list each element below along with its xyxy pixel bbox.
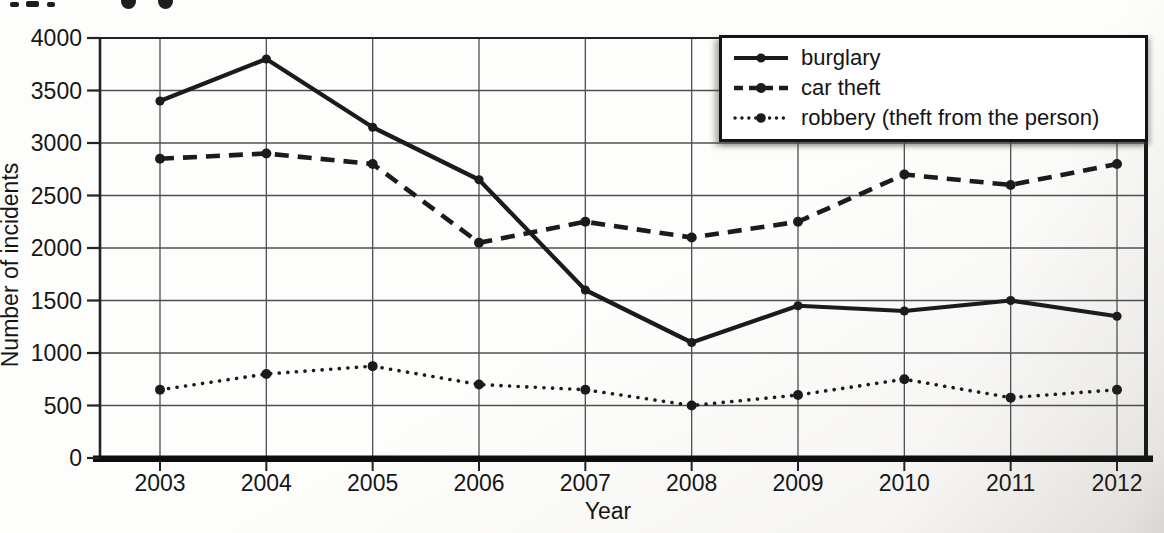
burglary-marker (900, 306, 909, 315)
robbery-theft-from-the-person-marker (687, 401, 697, 411)
legend-label: burglary (801, 45, 880, 71)
x-tick-label: 2012 (1091, 470, 1142, 496)
car-theft-marker (899, 170, 909, 180)
car-theft-marker (580, 217, 590, 227)
burglary-marker (687, 338, 696, 347)
burglary-marker (1006, 296, 1015, 305)
burglary-marker (474, 175, 483, 184)
legend-item-robbery: robbery (theft from the person) (732, 103, 1141, 133)
y-tick-label: 3000 (31, 130, 82, 156)
legend-label: car theft (801, 75, 880, 101)
dashed-line-sample-icon (732, 80, 790, 96)
y-tick-label: 0 (69, 445, 82, 471)
x-tick-label: 2003 (134, 470, 185, 496)
legend-item-burglary: burglary (732, 43, 1141, 73)
car-theft-line (160, 154, 1117, 243)
y-tick-label: 2000 (31, 235, 82, 261)
y-tick-label: 3500 (31, 78, 82, 104)
x-tick-label: 2006 (453, 470, 504, 496)
robbery-theft-from-the-person-marker (1006, 393, 1016, 403)
robbery-theft-from-the-person-marker (580, 385, 590, 395)
dotted-line-sample-icon (732, 110, 790, 126)
scanned-chart-page: 0500100015002000250030003500400020032004… (0, 0, 1164, 533)
car-theft-marker (474, 238, 484, 248)
burglary-marker (262, 54, 271, 63)
car-theft-marker (687, 233, 697, 243)
solid-line-sample-icon (732, 50, 790, 66)
x-axis (93, 456, 1153, 463)
burglary-marker (793, 301, 802, 310)
car-theft-marker (1112, 159, 1122, 169)
y-tick-label: 2500 (31, 183, 82, 209)
x-tick-label: 2007 (560, 470, 611, 496)
y-tick-label: 1500 (31, 288, 82, 314)
x-tick-label: 2010 (879, 470, 930, 496)
burglary-marker (581, 285, 590, 294)
robbery-theft-from-the-person-marker (261, 369, 271, 379)
car-theft-marker (1006, 180, 1016, 190)
car-theft-marker (261, 149, 271, 159)
robbery-theft-from-the-person-marker (1112, 385, 1122, 395)
x-tick-label: 2011 (986, 470, 1035, 496)
burglary-marker (368, 123, 377, 132)
x-axis-title: Year (585, 498, 632, 524)
robbery-theft-from-the-person-marker (474, 380, 484, 390)
x-tick-label: 2004 (241, 470, 292, 496)
legend: burglary car theft robbery (theft from t… (719, 35, 1148, 142)
y-tick-label: 500 (44, 393, 82, 419)
robbery-theft-from-the-person-marker (899, 374, 909, 384)
legend-item-car-theft: car theft (732, 73, 1141, 103)
burglary-marker (155, 96, 164, 105)
robbery-theft-from-the-person-marker (793, 390, 803, 400)
x-tick-label: 2008 (666, 470, 717, 496)
robbery-theft-from-the-person-marker (155, 385, 165, 395)
car-theft-marker (793, 217, 803, 227)
y-tick-label: 4000 (31, 25, 82, 51)
legend-label: robbery (theft from the person) (801, 105, 1099, 131)
robbery-theft-from-the-person-marker (368, 361, 378, 371)
burglary-marker (1112, 312, 1121, 321)
robbery-theft-from-the-person-line (160, 366, 1117, 405)
x-tick-label: 2005 (347, 470, 398, 496)
y-axis-title: Number of incidents (0, 163, 23, 368)
car-theft-marker (368, 159, 378, 169)
x-tick-label: 2009 (772, 470, 823, 496)
car-theft-marker (155, 154, 165, 164)
y-tick-label: 1000 (31, 340, 82, 366)
